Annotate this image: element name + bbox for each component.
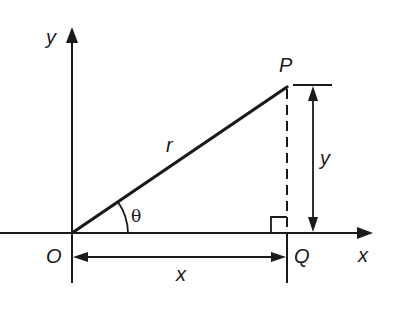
y-axis [66,27,78,283]
origin-label: O [46,245,62,267]
angle-label: θ [131,206,141,226]
angle-arc [118,202,128,233]
dimension-arrow-left-icon [73,252,88,262]
vertical-distance-label: y [318,147,331,169]
y-axis-label: y [44,26,57,48]
x-axis-label: x [357,244,369,266]
point-q-label: Q [294,245,310,267]
radius-line-op [72,87,287,233]
dimension-arrow-right-icon [271,252,286,262]
horizontal-dimension [73,252,286,262]
diagram-canvas: y x O P Q r θ x y [0,0,393,309]
right-angle-marker [271,217,287,233]
x-axis [0,227,373,239]
point-p-label: P [279,54,293,76]
radius-label: r [166,134,174,156]
x-axis-arrow-icon [357,227,373,239]
y-axis-arrow-icon [66,27,78,43]
dimension-arrow-up-icon [308,86,318,101]
dimension-arrow-down-icon [308,217,318,232]
horizontal-distance-label: x [175,263,187,285]
